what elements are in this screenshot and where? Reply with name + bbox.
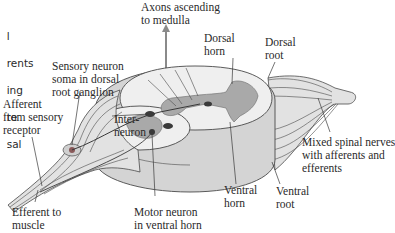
label-sensory-neuron: Sensory neuron soma in dorsal root gangl… bbox=[52, 60, 124, 99]
label-dorsal-root: Dorsal root bbox=[265, 36, 296, 62]
label-efferent: Efferent to muscle bbox=[12, 206, 61, 232]
fragment-line: l bbox=[7, 30, 10, 42]
label-ventral-horn: Ventral horn bbox=[224, 184, 257, 210]
label-ventral-root: Ventral root bbox=[276, 185, 309, 211]
label-axons-ascending: Axons ascending to medulla bbox=[141, 1, 220, 27]
fragment-line: rents bbox=[7, 57, 34, 69]
label-afferent: Afferent from sensory receptor bbox=[3, 98, 63, 137]
fragment-line: sal bbox=[7, 138, 22, 150]
label-interneuron: Inter- neuron bbox=[114, 113, 146, 139]
label-motor-neuron: Motor neuron in ventral horn bbox=[134, 206, 202, 232]
label-mixed-nerves: Mixed spinal nerves with afferents and e… bbox=[302, 136, 395, 175]
label-dorsal-horn: Dorsal horn bbox=[204, 32, 235, 58]
fragment-line: ing bbox=[7, 84, 23, 96]
